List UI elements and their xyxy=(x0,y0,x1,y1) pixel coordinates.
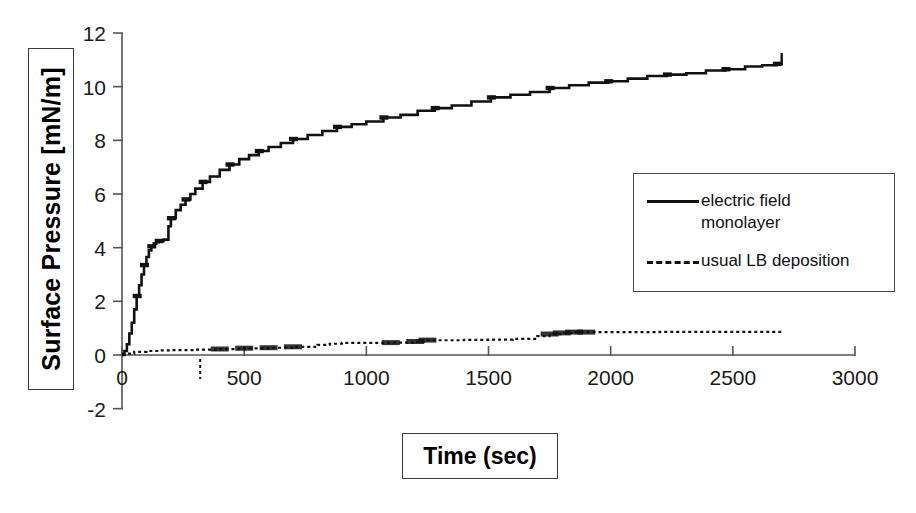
x-tick-label: 1500 xyxy=(465,366,512,389)
legend-item-electric-field-monolayer: electric field monolayer xyxy=(645,190,791,234)
legend-label-electric-field-monolayer: electric field monolayer xyxy=(701,190,791,234)
x-tick-label: 1000 xyxy=(343,366,390,389)
y-tick-label: 0 xyxy=(94,344,106,367)
x-tick-label: 500 xyxy=(227,366,262,389)
trace-ink-blob xyxy=(133,294,142,298)
trace-ink-blob xyxy=(431,106,440,110)
trace-ink-blob xyxy=(182,197,191,201)
trace-ink-blob xyxy=(167,216,176,220)
trace-ink-blob xyxy=(199,180,208,184)
trace-ink-blob xyxy=(155,239,164,243)
x-axis-label-box: Time (sec) xyxy=(402,433,558,479)
y-tick-label: 8 xyxy=(94,129,106,152)
trace-ink-blob xyxy=(418,338,436,343)
trace-ink-blob xyxy=(546,86,555,90)
legend-label-usual-lb-deposition: usual LB deposition xyxy=(701,250,849,272)
trace-ink-blob xyxy=(211,347,229,352)
y-tick-label: -2 xyxy=(87,398,106,421)
trace-ink-blob xyxy=(382,340,400,345)
trace-ink-blob xyxy=(147,244,156,248)
x-axis-label: Time (sec) xyxy=(423,443,536,470)
x-tick-label: 3000 xyxy=(832,366,879,389)
x-tick-label: 2500 xyxy=(709,366,756,389)
trace-ink-blob xyxy=(487,95,496,99)
trace-ink-blob xyxy=(226,162,235,166)
trace-ink-blob xyxy=(235,346,253,351)
y-tick-label: 6 xyxy=(94,183,106,206)
legend-swatch-dashed-line xyxy=(645,252,701,270)
legend-item-usual-lb-deposition: usual LB deposition xyxy=(645,250,849,272)
trace-ink-blob xyxy=(333,125,342,129)
x-tick-label: 0 xyxy=(116,366,128,389)
trace-ink-blob xyxy=(379,115,388,119)
trace-ink-blob xyxy=(773,62,782,66)
trace-ink-blob xyxy=(604,79,613,83)
trace-ink-blob xyxy=(663,72,672,76)
x-tick-label: 2000 xyxy=(587,366,634,389)
trace-ink-blob xyxy=(260,345,278,350)
trace-ink-blob xyxy=(289,137,298,141)
trace-ink-blob xyxy=(577,330,595,335)
trace-ink-blob xyxy=(140,263,149,267)
y-tick-label: 12 xyxy=(83,22,106,45)
y-axis-label-box: Surface Pressure [mN/m] xyxy=(28,48,74,390)
y-tick-label: 4 xyxy=(94,237,106,260)
trace-ink-blob xyxy=(284,344,302,349)
legend-swatch-solid-line xyxy=(645,192,701,210)
y-axis-label: Surface Pressure [mN/m] xyxy=(37,67,66,370)
y-tick-label: 10 xyxy=(83,76,106,99)
legend: electric field monolayer usual LB deposi… xyxy=(633,173,895,292)
y-tick-label: 2 xyxy=(94,290,106,313)
trace-ink-blob xyxy=(722,67,731,71)
trace-ink-blob xyxy=(255,149,264,153)
